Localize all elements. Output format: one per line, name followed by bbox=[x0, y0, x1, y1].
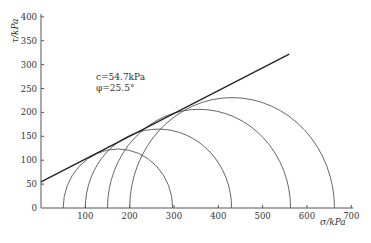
axes bbox=[41, 14, 353, 208]
y-tick-label: 50 bbox=[26, 179, 37, 189]
y-tick-label: 400 bbox=[21, 12, 37, 22]
mohr-circle bbox=[63, 149, 172, 208]
y-tick-label: 250 bbox=[21, 84, 37, 94]
cohesion-annotation: c=54.7kPa bbox=[96, 72, 146, 82]
y-tick-label: 0 bbox=[32, 203, 37, 213]
y-tick-label: 300 bbox=[21, 60, 37, 70]
mohr-circle bbox=[130, 98, 335, 208]
mohr-circle bbox=[107, 109, 290, 208]
y-tick-label: 200 bbox=[21, 107, 37, 117]
mohr-circle-chart: 050100150200250300350400 100200300400500… bbox=[0, 0, 371, 243]
x-axis-title: σ/kPa bbox=[320, 217, 346, 227]
x-tick-label: 400 bbox=[210, 211, 226, 221]
y-axis-title: τ/kPa bbox=[10, 19, 20, 43]
x-tick-label: 100 bbox=[77, 211, 93, 221]
y-tick-label: 100 bbox=[21, 155, 37, 165]
mohr-circles bbox=[63, 98, 334, 208]
x-tick-label: 300 bbox=[166, 211, 182, 221]
failure-envelope-line bbox=[41, 54, 289, 182]
friction-angle-annotation: φ=25.5° bbox=[96, 83, 134, 93]
x-tick-labels: 100200300400500600700 bbox=[77, 211, 359, 221]
x-tick-label: 500 bbox=[255, 211, 271, 221]
x-tick-label: 600 bbox=[299, 211, 315, 221]
y-tick-label: 150 bbox=[21, 131, 37, 141]
chart-svg: 050100150200250300350400 100200300400500… bbox=[0, 0, 371, 243]
x-tick-label: 200 bbox=[122, 211, 138, 221]
y-tick-label: 350 bbox=[21, 36, 37, 46]
y-tick-labels: 050100150200250300350400 bbox=[21, 12, 37, 213]
